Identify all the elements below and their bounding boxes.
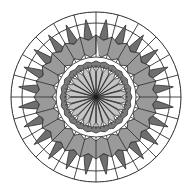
mandala-group [11, 12, 181, 182]
center-hub-dot [94, 95, 98, 99]
mandala-figure: Radial Mandala Rosette Diagram [0, 0, 193, 192]
mandala-canvas [0, 0, 193, 192]
